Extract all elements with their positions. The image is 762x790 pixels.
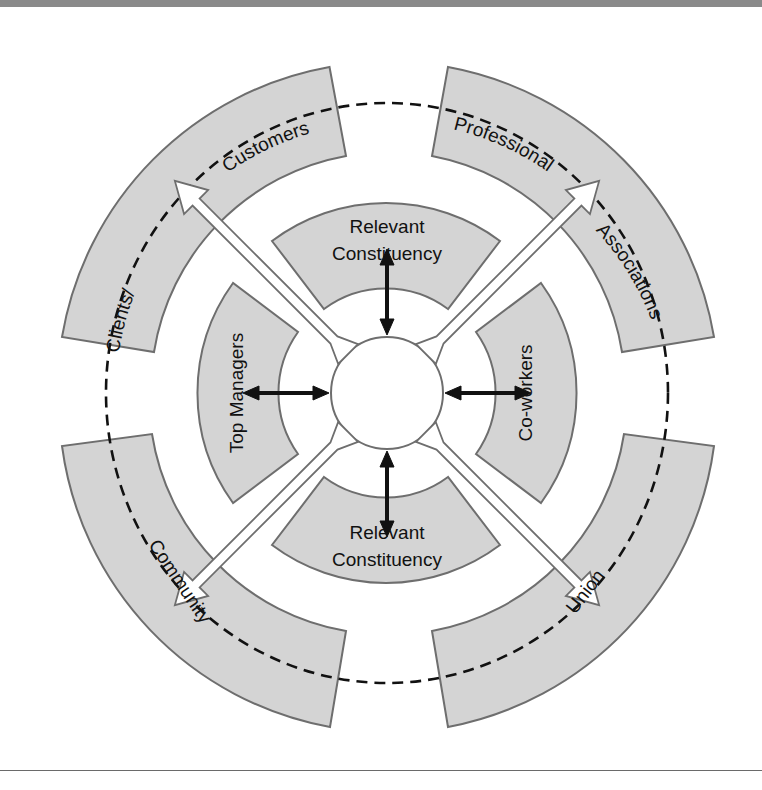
double-arrow-left — [243, 386, 329, 400]
label-top-line2: Constituency — [332, 243, 442, 264]
label-co-workers: Co-workers — [515, 344, 536, 441]
stakeholder-diagram: Clients/ Customers Professional Associat… — [0, 0, 762, 790]
label-bottom-line1: Relevant — [350, 522, 426, 543]
label-top-managers: Top Managers — [226, 333, 247, 453]
bottom-rule — [0, 770, 762, 771]
label-bottom-line2: Constituency — [332, 549, 442, 570]
label-top-line1: Relevant — [350, 216, 426, 237]
